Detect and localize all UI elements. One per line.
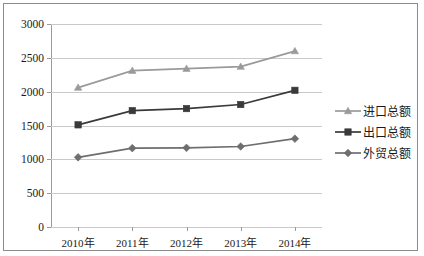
legend-marker-triangle-icon [334,104,362,118]
series-2 [75,87,298,128]
legend-item-1[interactable]: 进口总额 [334,100,416,121]
x-tick [241,227,242,231]
x-tick [78,227,79,231]
legend-label: 进口总额 [363,102,411,119]
x-axis-label: 2014年 [278,234,311,250]
x-tick [132,227,133,231]
plot-area: 050010001500200025003000 2010年2011年2012年… [51,24,322,227]
x-tick [295,227,296,231]
data-point [183,105,189,111]
y-axis-label: 500 [27,187,44,199]
y-axis-label: 2000 [21,86,44,98]
y-tick [47,227,51,228]
legend-item-2[interactable]: 出口总额 [334,121,416,142]
plot-inner: 050010001500200025003000 2010年2011年2012年… [51,24,322,227]
legend-marker-diamond-icon [334,146,362,160]
y-axis-label: 2500 [21,52,44,64]
data-point [292,87,298,93]
data-point [238,101,244,107]
data-series-layer [51,24,322,227]
x-axis-label: 2012年 [170,234,203,250]
x-axis-label: 2013年 [224,234,257,250]
data-point [128,144,136,152]
y-axis-label: 3000 [21,18,44,30]
x-axis-label: 2010年 [62,234,95,250]
y-axis-label: 1500 [21,120,44,132]
y-axis-label: 0 [38,221,44,233]
chart-legend: 进口总额出口总额外贸总额 [334,100,416,163]
series-1 [74,47,298,90]
data-point [75,122,81,128]
series-3 [74,135,298,161]
data-point [237,143,245,151]
legend-label: 出口总额 [363,123,411,140]
data-point [183,144,191,152]
chart-frame: 050010001500200025003000 2010年2011年2012年… [3,3,418,251]
data-point [291,135,299,143]
data-point [74,153,82,161]
x-tick [187,227,188,231]
data-point [291,47,298,53]
legend-label: 外贸总额 [363,144,411,161]
legend-marker-square-icon [334,125,362,139]
data-point [129,107,135,113]
legend-item-3[interactable]: 外贸总额 [334,142,416,163]
x-axis-label: 2011年 [116,234,149,250]
y-axis-label: 1000 [21,153,44,165]
